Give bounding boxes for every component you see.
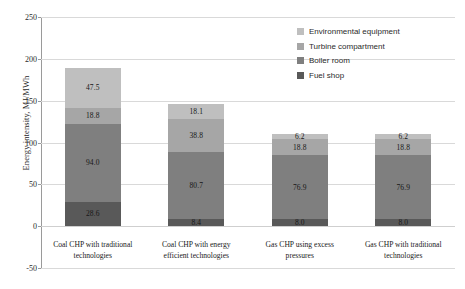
bar-segment-value-label: 76.9: [396, 184, 410, 192]
bar-segment-value-label: 47.5: [86, 84, 100, 92]
energy-intensity-stacked-bar-chart: Energy intensity, MJ/MWh 250200150100500…: [0, 0, 465, 289]
category-label-line: Gas CHP using excess: [248, 240, 352, 251]
legend-item-label: Boiler room: [309, 56, 350, 65]
legend-color-swatch: [297, 28, 304, 35]
bar-segment-value-label: 8.0: [295, 219, 305, 227]
bar-stack[interactable]: 6.218.876.98.0: [375, 134, 431, 226]
category-label-line: Coal CHP with energy: [145, 240, 249, 251]
category-label-line: pressures: [248, 251, 352, 262]
bar-segment-value-label: 80.7: [189, 182, 203, 190]
category-label-line: technologies: [352, 251, 456, 262]
legend-item[interactable]: Fuel shop: [297, 71, 400, 80]
y-axis-tick-label: 50: [29, 180, 37, 189]
category-label-line: Coal CHP with traditional: [41, 240, 145, 251]
bar-stack[interactable]: 18.138.880.78.4: [168, 104, 224, 226]
bar-segment[interactable]: 8.0: [272, 219, 328, 226]
category-label-line: efficient technologies: [145, 251, 249, 262]
y-axis-tick-label: 100: [25, 138, 37, 147]
bar-segment[interactable]: 76.9: [272, 155, 328, 219]
bar-segment[interactable]: 28.6: [65, 202, 121, 226]
bar-segment[interactable]: 76.9: [375, 155, 431, 219]
bar-segment[interactable]: 18.8: [272, 139, 328, 155]
bar-segment-value-label: 8.4: [191, 219, 201, 227]
bar-segment-value-label: 18.8: [396, 144, 410, 152]
bar-segment[interactable]: 94.0: [65, 124, 121, 203]
bar-segment-value-label: 76.9: [293, 184, 307, 192]
x-axis-category-label: Coal CHP with traditionaltechnologies: [41, 240, 145, 261]
bar-segment-value-label: 18.8: [86, 112, 100, 120]
bar-segment[interactable]: 18.8: [65, 108, 121, 124]
bar-stack[interactable]: 47.518.894.028.6: [65, 68, 121, 226]
legend-color-swatch: [297, 72, 304, 79]
category-label-line: technologies: [41, 251, 145, 262]
y-axis-title: Energy intensity, MJ/MWh: [21, 53, 31, 193]
y-axis-tick-label: -50: [26, 264, 37, 273]
x-axis-category-label: Coal CHP with energyefficient technologi…: [145, 240, 249, 261]
bar-segment-value-label: 38.8: [189, 132, 203, 140]
y-axis-tick-label: 250: [25, 13, 37, 22]
y-axis-tick-label: 150: [25, 96, 37, 105]
bar-segment[interactable]: 38.8: [168, 119, 224, 151]
bar-segment[interactable]: 8.0: [375, 219, 431, 226]
chart-legend: Environmental equipmentTurbine compartme…: [297, 27, 400, 80]
legend-color-swatch: [297, 43, 304, 50]
x-axis-category-label: Gas CHP using excesspressures: [248, 240, 352, 261]
x-axis-category-label: Gas CHP with traditionaltechnologies: [352, 240, 456, 261]
bar-stack[interactable]: 6.218.876.98.0: [272, 134, 328, 226]
y-axis-tick-label: 0: [33, 222, 37, 231]
y-axis-tick-label: 200: [25, 54, 37, 63]
x-axis-category-labels: Coal CHP with traditionaltechnologiesCoa…: [41, 240, 455, 270]
category-label-line: Gas CHP with traditional: [352, 240, 456, 251]
legend-item[interactable]: Turbine compartment: [297, 42, 400, 51]
legend-item-label: Turbine compartment: [309, 42, 385, 51]
bar-segment-value-label: 94.0: [86, 159, 100, 167]
bar-segment[interactable]: 80.7: [168, 152, 224, 220]
legend-item-label: Fuel shop: [309, 71, 344, 80]
bar-segment[interactable]: 47.5: [65, 68, 121, 108]
legend-color-swatch: [297, 57, 304, 64]
bar-segment-value-label: 28.6: [86, 210, 100, 218]
legend-item-label: Environmental equipment: [309, 27, 400, 36]
legend-item[interactable]: Environmental equipment: [297, 27, 400, 36]
bar-segment[interactable]: 18.8: [375, 139, 431, 155]
bar-segment[interactable]: 8.4: [168, 219, 224, 226]
bar-segment-value-label: 18.8: [293, 144, 307, 152]
bar-segment-value-label: 18.1: [189, 108, 203, 116]
bar-segment[interactable]: 18.1: [168, 104, 224, 119]
legend-item[interactable]: Boiler room: [297, 56, 400, 65]
bar-segment-value-label: 8.0: [398, 219, 408, 227]
